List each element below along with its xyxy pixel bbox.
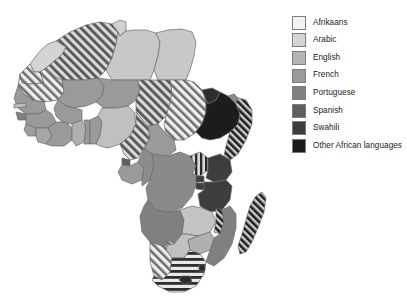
- region-dr-congo[interactable]: [146, 152, 198, 212]
- region-eswatini[interactable]: [199, 265, 205, 271]
- legend-label-afrikaans: Afrikaans: [313, 19, 348, 27]
- legend-swatch-other-african-languages: [292, 139, 306, 153]
- legend-swatch-swahili: [292, 121, 306, 135]
- legend-label-arabic: Arabic: [313, 36, 337, 44]
- legend-label-swahili: Swahili: [313, 124, 339, 132]
- legend-label-english: English: [313, 54, 340, 62]
- legend-item-other-african-languages[interactable]: Other African languages: [292, 137, 407, 155]
- region-burundi[interactable]: [196, 183, 204, 190]
- legend-swatch-spanish: [292, 104, 306, 118]
- legend-item-arabic[interactable]: Arabic: [292, 32, 407, 50]
- legend-item-french[interactable]: French: [292, 67, 407, 85]
- legend-label-portuguese: Portuguese: [313, 89, 355, 97]
- legend-swatch-english: [292, 51, 306, 65]
- region-rwanda[interactable]: [196, 176, 204, 182]
- legend-swatch-afrikaans: [292, 16, 306, 30]
- legend-item-portuguese[interactable]: Portuguese: [292, 84, 407, 102]
- region-niger[interactable]: [96, 78, 140, 108]
- legend-label-other-african-languages: Other African languages: [313, 142, 402, 150]
- legend-item-spanish[interactable]: Spanish: [292, 102, 407, 120]
- africa-map-svg[interactable]: [0, 0, 285, 306]
- legend-item-english[interactable]: English: [292, 49, 407, 67]
- legend-swatch-portuguese: [292, 86, 306, 100]
- legend-item-afrikaans[interactable]: Afrikaans: [292, 14, 407, 32]
- africa-language-map-figure: Afrikaans Arabic English French Portugue…: [0, 0, 407, 306]
- legend: Afrikaans Arabic English French Portugue…: [292, 14, 407, 155]
- region-mali[interactable]: [58, 78, 104, 108]
- legend-item-swahili[interactable]: Swahili: [292, 120, 407, 138]
- legend-swatch-french: [292, 69, 306, 83]
- region-gambia[interactable]: [14, 103, 26, 108]
- region-madagascar[interactable]: [238, 192, 266, 254]
- map-area[interactable]: [0, 0, 285, 306]
- legend-label-spanish: Spanish: [313, 107, 343, 115]
- region-gabon[interactable]: [118, 162, 144, 184]
- legend-swatch-arabic: [292, 33, 306, 47]
- legend-label-french: French: [313, 71, 339, 79]
- region-egypt[interactable]: [154, 29, 196, 80]
